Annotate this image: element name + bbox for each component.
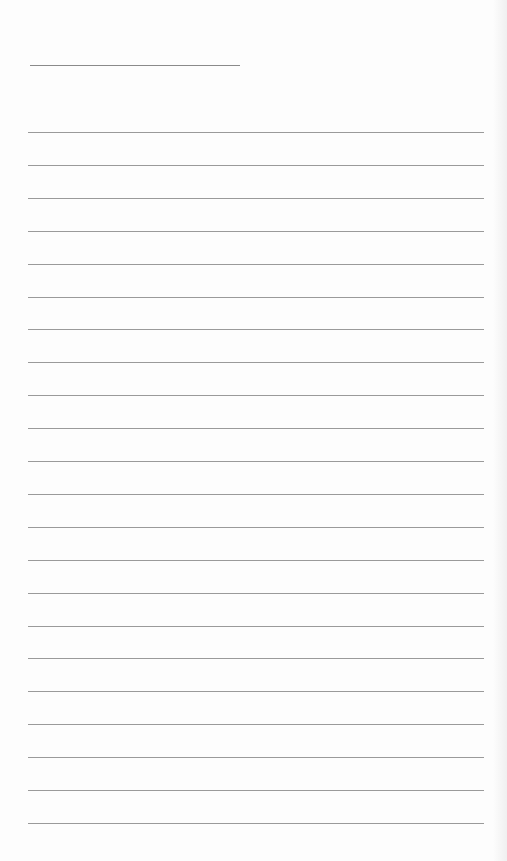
ruled-line (28, 593, 484, 594)
ruled-line (28, 395, 484, 396)
ruled-line (28, 231, 484, 232)
ruled-line (28, 494, 484, 495)
ruled-line (28, 198, 484, 199)
ruled-line (28, 527, 484, 528)
ruled-line (28, 362, 484, 363)
ruled-line (28, 823, 484, 824)
ruled-line (28, 658, 484, 659)
ruled-line (28, 724, 484, 725)
page-edge-shadow (493, 0, 507, 861)
ruled-line (28, 329, 484, 330)
ruled-line (28, 691, 484, 692)
ruled-line (28, 626, 484, 627)
ruled-line (28, 560, 484, 561)
ruled-line (28, 165, 484, 166)
ruled-line (28, 264, 484, 265)
ruled-line (28, 132, 484, 133)
ruled-line (28, 428, 484, 429)
ruled-page (0, 0, 507, 861)
header-line (30, 65, 240, 66)
ruled-line (28, 757, 484, 758)
ruled-line (28, 297, 484, 298)
ruled-line (28, 461, 484, 462)
ruled-line (28, 790, 484, 791)
